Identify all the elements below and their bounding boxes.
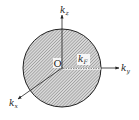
origin-label: O bbox=[54, 58, 62, 69]
fermi-sphere-diagram: kz ky kx kF O bbox=[0, 0, 139, 120]
ky-label: ky bbox=[121, 63, 130, 75]
kz-label: kz bbox=[60, 5, 69, 16]
kx-label: kx bbox=[9, 98, 18, 109]
